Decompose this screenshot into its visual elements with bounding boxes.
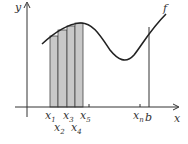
riemann-rectangles xyxy=(50,23,83,107)
rectangle-2 xyxy=(58,30,67,107)
label-x5: x5 xyxy=(80,109,91,124)
curve-label: f xyxy=(162,2,169,15)
axes xyxy=(15,2,179,117)
label-xn: xn xyxy=(133,109,144,124)
rectangle-4 xyxy=(75,23,83,107)
label-x4: x4 xyxy=(71,121,82,136)
riemann-sum-figure: y x f b x1 x2 x3 x4 x5 xn xyxy=(0,0,188,144)
diagram-canvas: y x f b x1 x2 x3 x4 x5 xn xyxy=(0,0,188,144)
rectangle-3 xyxy=(67,26,75,107)
y-axis-label: y xyxy=(14,1,22,14)
x-axis-label: x xyxy=(174,112,181,125)
b-label: b xyxy=(145,111,152,124)
partition-labels: x1 x2 x3 x4 x5 xn xyxy=(45,109,144,136)
label-x2: x2 xyxy=(54,121,65,136)
rectangle-1 xyxy=(50,36,58,107)
